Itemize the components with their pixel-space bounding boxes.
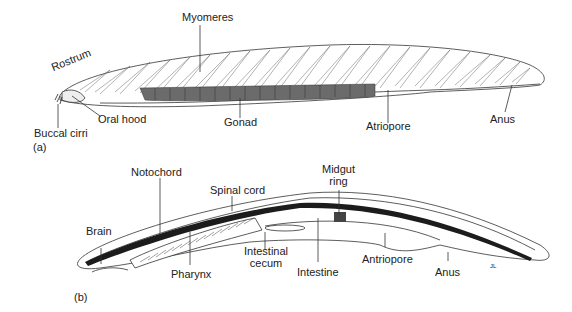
label-midgut-ring: Midgut ring — [322, 163, 355, 187]
label-intestine: Intestine — [297, 266, 339, 278]
label-pharynx: Pharynx — [171, 268, 211, 280]
label-midgut-ring-line1: Midgut — [322, 163, 355, 175]
label-intestinal-cecum-line1: Intestinal — [244, 245, 288, 257]
label-myomeres: Myomeres — [182, 11, 233, 23]
panel-label-a: (a) — [33, 141, 46, 153]
label-atriopore: Atriopore — [366, 120, 411, 132]
label-antriopore: Antriopore — [362, 253, 413, 265]
label-anus-b: Anus — [435, 266, 460, 278]
label-notochord: Notochord — [131, 166, 182, 178]
label-buccal-cirri: Buccal cirri — [34, 127, 88, 139]
label-spinal-cord: Spinal cord — [210, 184, 265, 196]
signature: JL — [490, 260, 496, 272]
label-midgut-ring-line2: ring — [322, 175, 355, 187]
panel-b-body — [77, 178, 549, 272]
label-oral-hood: Oral hood — [98, 113, 146, 125]
label-intestinal-cecum: Intestinal cecum — [244, 245, 288, 269]
label-anus-a: Anus — [490, 113, 515, 125]
panel-label-b: (b) — [74, 291, 87, 303]
label-brain: Brain — [86, 225, 112, 237]
label-intestinal-cecum-line2: cecum — [244, 257, 288, 269]
label-gonad: Gonad — [224, 116, 257, 128]
